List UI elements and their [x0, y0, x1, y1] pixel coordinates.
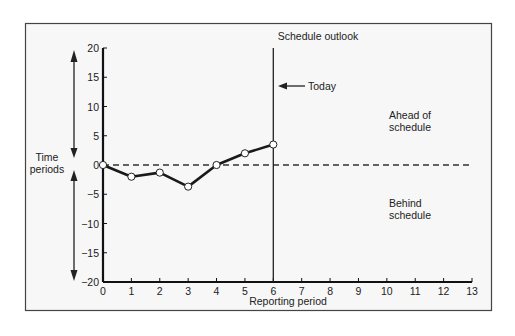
x-tick-label: 0	[100, 285, 106, 297]
svg-text:Time: Time	[36, 151, 59, 163]
x-tick-label: 12	[438, 285, 450, 297]
data-point	[156, 169, 163, 176]
svg-text:Behind: Behind	[389, 197, 422, 209]
x-tick-label: 1	[128, 285, 134, 297]
x-tick-label: 10	[381, 285, 393, 297]
y-tick-label: 5	[93, 130, 99, 142]
svg-text:Today: Today	[308, 80, 337, 92]
ahead-of-schedule-label: Ahead of schedule	[389, 109, 431, 133]
x-axis-label: Reporting period	[249, 295, 327, 307]
y-tick-label: −15	[81, 247, 99, 259]
schedule-outlook-chart: Schedule outlook 20151050−5−10−15−20 012…	[0, 0, 515, 336]
y-tick-label: −20	[81, 276, 99, 288]
y-tick-label: −5	[87, 188, 99, 200]
x-tick-label: 8	[327, 285, 333, 297]
data-point	[185, 183, 192, 190]
data-point	[270, 141, 277, 148]
y-tick-label: 20	[87, 42, 99, 54]
y-tick-label: 15	[87, 71, 99, 83]
data-point	[241, 150, 248, 157]
x-tick-label: 9	[356, 285, 362, 297]
svg-text:schedule: schedule	[389, 121, 431, 133]
y-tick-label: −10	[81, 218, 99, 230]
x-tick-label: 13	[466, 285, 478, 297]
x-tick-label: 4	[214, 285, 220, 297]
svg-text:Ahead of: Ahead of	[389, 109, 431, 121]
svg-text:schedule: schedule	[389, 209, 431, 221]
data-point	[128, 173, 135, 180]
data-point	[213, 161, 220, 168]
x-tick-label: 11	[410, 285, 421, 297]
data-point	[99, 161, 106, 168]
x-tick-label: 5	[242, 285, 248, 297]
svg-text:periods: periods	[30, 163, 64, 175]
y-tick-label: 0	[93, 159, 99, 171]
y-tick-label: 10	[87, 101, 99, 113]
chart-title: Schedule outlook	[278, 30, 359, 42]
x-tick-label: 2	[157, 285, 163, 297]
x-tick-label: 3	[185, 285, 191, 297]
